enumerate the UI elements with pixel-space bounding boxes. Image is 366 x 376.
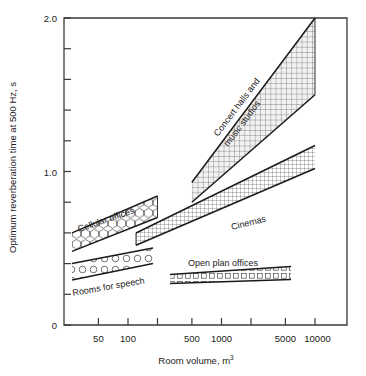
x-axis-title-exponent: 3 <box>230 354 234 361</box>
x-tick-label-50: 50 <box>93 333 104 344</box>
band-label-open-plan-offices: Open plan offices <box>188 258 258 268</box>
y-tick-label-2: 2.0 <box>44 13 57 24</box>
x-tick-label-500: 500 <box>184 333 200 344</box>
y-axis-title: Optimum reverberation time at 500 Hz, s <box>7 82 18 253</box>
x-tick-label-1000: 1000 <box>211 333 232 344</box>
y-tick-label-0: 0 <box>52 320 57 331</box>
reverberation-time-chart: 2.0 1.0 0 Optimum reverberation time at … <box>0 0 366 376</box>
x-tick-label-100: 100 <box>120 333 136 344</box>
chart-svg: 2.0 1.0 0 Optimum reverberation time at … <box>0 0 366 376</box>
x-axis-title-group: Room volume, m3 <box>158 354 234 366</box>
y-tick-label-1: 1.0 <box>44 167 57 178</box>
x-tick-label-5000: 5000 <box>275 333 296 344</box>
x-tick-label-10000: 10000 <box>304 333 330 344</box>
x-axis-title: Room volume, m3 <box>158 354 234 366</box>
x-axis-title-text: Room volume, m <box>158 355 230 366</box>
x-axis-labels: 50 100 500 1000 5000 10000 <box>93 333 331 344</box>
y-axis-title-group: Optimum reverberation time at 500 Hz, s <box>7 82 18 253</box>
